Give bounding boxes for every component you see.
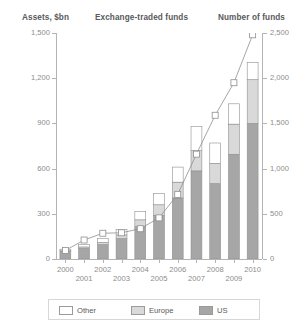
right-tick-mark xyxy=(263,259,267,260)
right-tick-mark xyxy=(263,78,267,79)
legend-item-other[interactable]: Other xyxy=(59,304,96,316)
x-tick-label: 2002 xyxy=(88,265,118,274)
left-axis-title: Assets, $bn xyxy=(22,13,69,22)
right-tick-label: 1,000 xyxy=(270,164,289,173)
legend-swatch-us xyxy=(199,306,213,315)
bar-segment-other xyxy=(228,104,239,124)
legend: OtherEuropeUS xyxy=(48,299,260,320)
x-tick-mark xyxy=(234,259,235,263)
x-tick-mark xyxy=(122,259,123,263)
legend-item-us[interactable]: US xyxy=(199,304,228,316)
x-tick-mark xyxy=(178,259,179,263)
bar-segment-other xyxy=(135,212,146,220)
x-tick-label: 2005 xyxy=(144,274,174,283)
bar-segment-us xyxy=(247,123,258,259)
legend-swatch-other xyxy=(59,306,73,315)
right-tick-label: 2,000 xyxy=(270,73,289,82)
bar-segment-other xyxy=(79,245,90,247)
x-tick-label: 2004 xyxy=(125,265,155,274)
x-tick-mark xyxy=(84,259,85,263)
right-tick-mark xyxy=(263,214,267,215)
line-marker xyxy=(156,215,162,221)
line-marker xyxy=(193,151,199,157)
left-tick-label: 1,200 xyxy=(14,73,50,82)
bar-segment-europe xyxy=(247,80,258,124)
x-tick-label: 2006 xyxy=(163,265,193,274)
line-marker xyxy=(81,237,87,243)
line-marker xyxy=(175,191,181,197)
x-tick-label: 2008 xyxy=(200,265,230,274)
bar-segment-us xyxy=(228,154,239,259)
legend-label: Europe xyxy=(149,306,174,315)
bar-segment-us xyxy=(97,245,108,259)
legend-item-europe[interactable]: Europe xyxy=(131,304,174,316)
etf-chart: Assets, $bn Exchange-traded funds Number… xyxy=(0,0,306,329)
legend-label: Other xyxy=(77,306,96,315)
left-tick-label: 300 xyxy=(14,209,50,218)
x-tick-mark xyxy=(103,259,104,263)
x-tick-label: 2003 xyxy=(107,274,137,283)
x-tick-mark xyxy=(196,259,197,263)
right-tick-mark xyxy=(263,169,267,170)
x-tick-mark xyxy=(140,259,141,263)
x-tick-label: 2010 xyxy=(238,265,268,274)
right-tick-label: 500 xyxy=(270,209,283,218)
left-tick-label: 0 xyxy=(14,254,50,263)
right-tick-label: 2,500 xyxy=(270,28,289,37)
line-marker xyxy=(231,80,237,86)
right-axis-title: Number of funds xyxy=(218,13,285,22)
bar-segment-other xyxy=(210,143,221,163)
x-tick-mark xyxy=(65,259,66,263)
bar-segment-us xyxy=(154,215,165,259)
line-marker xyxy=(212,112,218,118)
bar-segment-europe xyxy=(97,242,108,244)
left-tick-label: 600 xyxy=(14,164,50,173)
x-tick-mark xyxy=(215,259,216,263)
right-tick-mark xyxy=(263,33,267,34)
chart-title: Exchange-traded funds xyxy=(95,13,188,22)
bar-segment-europe xyxy=(210,163,221,183)
line-marker xyxy=(119,230,125,236)
bar-segment-us xyxy=(79,248,90,259)
right-tick-label: 0 xyxy=(270,254,274,263)
left-tick-label: 900 xyxy=(14,118,50,127)
legend-label: US xyxy=(217,306,228,315)
line-marker xyxy=(100,230,106,236)
plot-area xyxy=(56,33,262,259)
legend-swatch-europe xyxy=(131,306,145,315)
left-tick-label: 1,500 xyxy=(14,28,50,37)
right-tick-mark xyxy=(263,123,267,124)
bar-segment-us xyxy=(210,184,221,259)
right-axis-line xyxy=(262,33,263,259)
bar-segment-other xyxy=(154,193,165,204)
right-tick-label: 1,500 xyxy=(270,118,289,127)
x-tick-mark xyxy=(159,259,160,263)
line-marker xyxy=(250,33,256,38)
x-tick-label: 2009 xyxy=(219,274,249,283)
x-tick-label: 2001 xyxy=(69,274,99,283)
bar-segment-other xyxy=(247,62,258,79)
x-tick-mark xyxy=(253,259,254,263)
bar-segment-other xyxy=(172,167,183,182)
line-marker xyxy=(137,226,143,232)
bar-segment-us xyxy=(191,171,202,259)
x-tick-label: 2007 xyxy=(181,274,211,283)
bar-segment-other xyxy=(97,239,108,243)
bar-segment-europe xyxy=(228,124,239,154)
bar-segment-us xyxy=(172,198,183,259)
line-marker xyxy=(62,247,68,253)
bar-segment-us xyxy=(116,239,127,259)
x-tick-label: 2000 xyxy=(50,265,80,274)
chart-canvas xyxy=(56,33,262,259)
